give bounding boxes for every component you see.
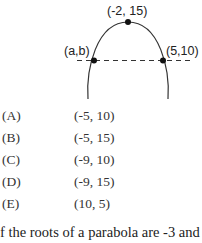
answer-choices: (A) (-5, 10) (B) (-5, 15) (C) (-9, 10) (… — [0, 108, 202, 218]
choice-value: (10, 5) — [74, 196, 110, 212]
choice-e: (E) (10, 5) — [0, 196, 202, 218]
choice-letter: (B) — [2, 130, 20, 146]
parabola-figure: (-2, 15) (a,b) (5,10) — [0, 0, 202, 105]
choice-letter: (C) — [2, 152, 20, 168]
choice-letter: (D) — [2, 174, 21, 190]
choice-letter: (E) — [2, 196, 19, 212]
choice-d: (D) (-9, 15) — [0, 174, 202, 196]
choice-b: (B) (-5, 15) — [0, 130, 202, 152]
choice-value: (-9, 15) — [74, 174, 115, 190]
choice-letter: (A) — [2, 108, 21, 124]
choice-value: (-5, 10) — [74, 108, 115, 124]
parabola-diagram: (-2, 15) (a,b) (5,10) — [0, 0, 202, 105]
choice-c: (C) (-9, 10) — [0, 152, 202, 174]
left-intersection-point — [91, 58, 97, 64]
choice-value: (-9, 10) — [74, 152, 115, 168]
vertex-point — [125, 19, 131, 25]
vertex-label: (-2, 15) — [107, 4, 147, 18]
choice-value: (-5, 15) — [74, 130, 115, 146]
right-intersection-point — [160, 58, 166, 64]
next-question-text: f the roots of a parabola are -3 and — [0, 224, 200, 241]
right-point-label: (5,10) — [166, 44, 199, 58]
choice-a: (A) (-5, 10) — [0, 108, 202, 130]
left-point-label: (a,b) — [64, 44, 90, 58]
